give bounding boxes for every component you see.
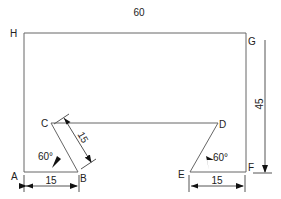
point-label-c: C bbox=[41, 118, 48, 129]
arrow-head bbox=[64, 118, 71, 125]
point-label-b: B bbox=[80, 173, 87, 184]
point-label-h: H bbox=[10, 28, 17, 39]
arrow-head bbox=[191, 184, 198, 189]
point-label-d: D bbox=[219, 119, 226, 130]
point-label-g: G bbox=[248, 36, 256, 47]
point-label-e: E bbox=[178, 169, 185, 180]
left-angle-label: 60° bbox=[38, 151, 53, 162]
point-label-a: A bbox=[11, 171, 18, 182]
left-base-dimension-label: 15 bbox=[45, 175, 57, 186]
height-dimension-label: 45 bbox=[254, 98, 265, 110]
left-angle-arrow bbox=[52, 156, 61, 168]
point-label-f: F bbox=[248, 162, 254, 173]
arrow-head bbox=[26, 184, 33, 189]
top-dimension-label: 60 bbox=[133, 7, 145, 18]
slant-ext-line-bottom bbox=[81, 159, 96, 169]
right-base-dimension-label: 15 bbox=[211, 175, 223, 186]
geometry-diagram: 60 H G A B C D E F 45 15 15 15 60° 60° bbox=[0, 0, 281, 199]
slant-dimension-label: 15 bbox=[75, 130, 90, 146]
right-angle-label: 60° bbox=[213, 152, 228, 163]
